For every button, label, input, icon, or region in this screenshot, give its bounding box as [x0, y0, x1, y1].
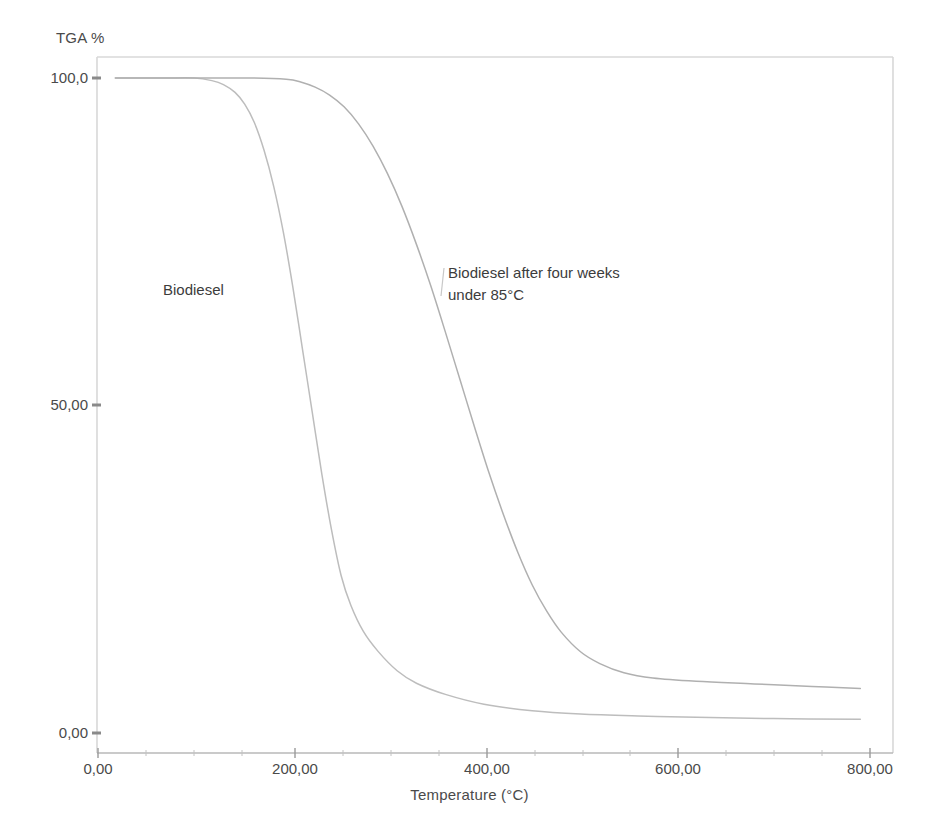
data-curves [115, 78, 860, 719]
annotation-leader-line [441, 268, 444, 296]
curve-annotation-biodiesel: Biodiesel [163, 279, 224, 301]
plot-frame [97, 57, 893, 753]
curve-1 [115, 78, 860, 719]
curve-annotation-biodiesel-aged: Biodiesel after four weeks under 85°C [448, 262, 620, 306]
chart-page: TGA % 100,0 50,00 0,00 0,00 200,00 400,0… [0, 0, 939, 839]
curve-2 [115, 78, 860, 689]
plot-area [0, 0, 939, 839]
